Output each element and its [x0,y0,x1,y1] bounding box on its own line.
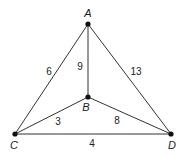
vertex-b-dot [85,94,90,99]
edge-bd [88,97,171,134]
labels: 6913384ABCD [10,7,176,151]
vertex-a-dot [85,21,90,26]
vertices [12,21,173,136]
edge-ad [88,24,171,134]
edge-weight-cd: 4 [89,138,95,149]
vertex-d-dot [168,131,173,136]
edge-weight-ac: 6 [46,66,52,77]
vertex-a-label: A [83,7,91,19]
vertex-c-dot [12,131,17,136]
vertex-c-label: C [10,139,18,151]
weighted-graph-diagram: 6913384ABCD [0,0,183,156]
edge-bc [15,97,88,134]
edge-weight-bc: 3 [55,116,61,127]
edge-weight-ad: 13 [130,66,142,77]
vertex-b-label: B [82,101,89,113]
edge-ac [15,24,88,134]
edge-weight-ab: 9 [77,61,83,72]
vertex-d-label: D [168,139,176,151]
edge-weight-bd: 8 [114,115,120,126]
edges [15,24,171,134]
